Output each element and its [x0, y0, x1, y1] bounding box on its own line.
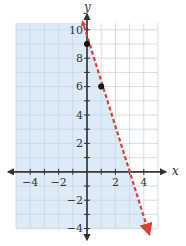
coordinate-plane: −4 −2 2 4 10 8 6 4 2 −2 −4 x y: [0, 0, 186, 246]
y-tick-label: 10: [69, 24, 83, 37]
x-tick-label: 2: [112, 176, 119, 189]
y-tick-label: 4: [76, 109, 83, 122]
x-tick-label: −4: [22, 176, 38, 189]
y-tick-label: 2: [76, 137, 83, 150]
y-tick-label: 6: [76, 80, 83, 93]
point-1-6: [98, 84, 104, 90]
x-tick-label: −2: [50, 176, 66, 189]
point-0-9: [84, 41, 90, 47]
x-tick-label: 4: [140, 176, 147, 189]
y-axis-label: y: [83, 0, 91, 14]
y-tick-label: −2: [67, 194, 83, 207]
y-tick-label: 8: [76, 52, 83, 65]
y-tick-label: −4: [67, 222, 83, 235]
x-axis-label: x: [172, 164, 179, 178]
